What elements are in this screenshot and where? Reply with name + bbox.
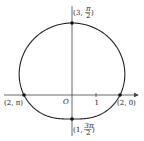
point-left [22, 93, 26, 97]
label-left: (2, π) [4, 99, 23, 107]
point-right [118, 93, 122, 97]
svg-text:2: 2 [86, 129, 90, 137]
svg-text:): ) [92, 126, 95, 134]
polar-diagram: O 1 (2, π) (2, 0) ( 3, π 2 ) ( 1, 3π 2 ) [0, 0, 144, 141]
svg-text:3,: 3, [76, 9, 83, 17]
svg-text:1,: 1, [76, 126, 83, 134]
point-top [70, 21, 74, 25]
label-top: ( 3, π 2 ) [73, 5, 94, 21]
point-bottom [70, 117, 74, 121]
svg-text:2: 2 [86, 12, 90, 20]
tick-label-1: 1 [95, 99, 99, 107]
origin-label: O [63, 98, 69, 106]
label-right: (2, 0) [117, 99, 136, 107]
label-bottom: ( 1, 3π 2 ) [73, 122, 95, 138]
svg-text:): ) [91, 9, 94, 17]
